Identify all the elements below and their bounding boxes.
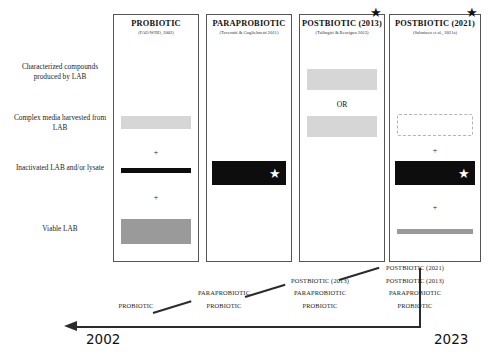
bar-viable-lab (397, 229, 473, 234)
bar-complex-media (307, 116, 377, 137)
star-icon-postbiotic-2021: ★ (466, 6, 478, 19)
row-label-inactivated-lab: Inactivated LAB and/or lysate (8, 163, 112, 173)
column-postbiotic-2013: POSTBIOTIC (2013) (Tsilingiri & Rescigno… (299, 14, 385, 262)
star-icon: ★ (269, 167, 281, 180)
plus-sign-1: + (390, 147, 480, 155)
row-label-viable-lab: Viable LAB (8, 224, 112, 234)
bar-inactivated-lab: ★ (395, 161, 475, 185)
column-postbiotic-2013-title: POSTBIOTIC (2013) (300, 19, 384, 28)
timeline-term: PROBIOTIC (176, 300, 272, 312)
column-paraprobiotic: PARAPROBIOTIC (Taverniti & Guglielmetti … (206, 14, 292, 262)
timeline-stack-2: PARAPROBIOTIC PROBIOTIC (176, 287, 272, 312)
postbiotic-definitions-figure: Characterized compounds produced by LAB … (0, 0, 499, 358)
timeline-term: PARAPROBIOTIC (363, 287, 467, 299)
star-icon: ★ (458, 167, 470, 180)
timeline-term: PARAPROBIOTIC (268, 287, 372, 299)
column-probiotic: PROBIOTIC (FAO/WHO, 2002) + + (113, 14, 199, 262)
timeline-stack-1: PROBIOTIC (94, 300, 178, 312)
column-probiotic-header: PROBIOTIC (FAO/WHO, 2002) (114, 19, 198, 35)
timeline-arrow-icon (64, 321, 77, 331)
column-postbiotic-2021-subtitle: (Salminen et al., 2021a) (390, 30, 480, 35)
or-label: OR (300, 101, 384, 109)
column-postbiotic-2021-header: POSTBIOTIC (2021) (Salminen et al., 2021… (390, 19, 480, 35)
timeline-term: PROBIOTIC (94, 300, 178, 312)
timeline-term: POSTBIOTIC (2021) (363, 262, 467, 274)
bar-inactivated-lab: ★ (212, 161, 286, 185)
column-postbiotic-2013-header: POSTBIOTIC (2013) (Tsilingiri & Rescigno… (300, 19, 384, 35)
row-label-complex-media: Complex media harvested from LAB (8, 113, 112, 132)
timeline-term: PROBIOTIC (363, 300, 467, 312)
timeline-stack-3: POSTBIOTIC (2013) PARAPROBIOTIC PROBIOTI… (268, 275, 372, 312)
column-postbiotic-2013-subtitle: (Tsilingiri & Rescigno 2013) (300, 30, 384, 35)
timeline-term: POSTBIOTIC (2013) (268, 275, 372, 287)
plus-sign-2: + (114, 194, 198, 202)
plus-sign-2: + (390, 204, 480, 212)
column-postbiotic-2021: POSTBIOTIC (2021) (Salminen et al., 2021… (389, 14, 481, 262)
timeline-term: PROBIOTIC (268, 300, 372, 312)
timeline-axis (76, 326, 421, 328)
row-label-characterized-compounds: Characterized compounds produced by LAB (8, 62, 112, 81)
column-paraprobiotic-header: PARAPROBIOTIC (Taverniti & Guglielmetti … (207, 19, 291, 35)
column-probiotic-title: PROBIOTIC (114, 19, 198, 28)
column-paraprobiotic-title: PARAPROBIOTIC (207, 19, 291, 28)
plus-sign-1: + (114, 149, 198, 157)
timeline-stack-4: POSTBIOTIC (2021) POSTBIOTIC (2013) PARA… (363, 262, 467, 312)
star-icon-postbiotic-2013: ★ (370, 6, 382, 19)
column-paraprobiotic-subtitle: (Taverniti & Guglielmetti 2011) (207, 30, 291, 35)
bar-complex-media (121, 116, 191, 129)
timeline-year-end: 2023 (434, 331, 468, 347)
column-postbiotic-2021-title: POSTBIOTIC (2021) (390, 19, 480, 28)
timeline-year-start: 2002 (86, 331, 120, 347)
bar-inactivated-lab (121, 168, 191, 173)
timeline-term: POSTBIOTIC (2013) (363, 275, 467, 287)
bar-viable-lab (121, 219, 191, 244)
bar-characterized-compounds-dashed (397, 114, 473, 136)
column-probiotic-subtitle: (FAO/WHO, 2002) (114, 30, 198, 35)
bar-characterized-compounds (307, 69, 377, 90)
timeline-term: PARAPROBIOTIC (176, 287, 272, 299)
